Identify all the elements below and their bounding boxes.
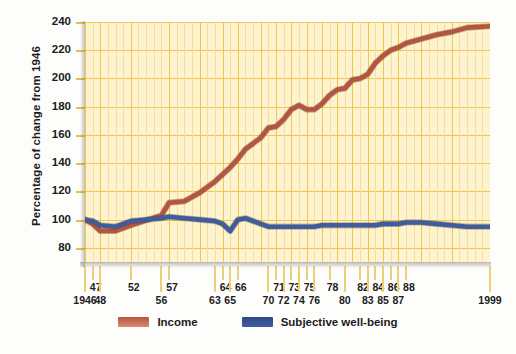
x-axis-label: 65 [224, 294, 236, 306]
x-axis-tick-upper [329, 266, 331, 280]
chart-container: Percentage of change from 1946 801001201… [0, 0, 516, 354]
x-axis-tick-lower [344, 266, 346, 292]
y-axis-label: 240 [27, 15, 71, 27]
x-axis-label: 74 [293, 294, 305, 306]
x-axis-tick-upper [130, 266, 132, 280]
x-axis-tick-upper [92, 266, 94, 280]
x-axis-label: 83 [362, 294, 374, 306]
x-axis-label: 80 [339, 294, 351, 306]
x-axis-label: 85 [377, 294, 389, 306]
legend-item-subjective-well-being: Subjective well-being [242, 316, 398, 328]
x-axis-label: 56 [156, 294, 168, 306]
x-axis-label: 78 [327, 281, 339, 293]
x-axis-label: 1946 [73, 294, 96, 306]
x-axis-tick-lower [397, 266, 399, 292]
x-axis-label: 1999 [478, 294, 501, 306]
x-axis-tick-upper [222, 266, 224, 280]
x-axis-tick-lower [382, 266, 384, 292]
x-axis-label: 52 [128, 281, 140, 293]
y-axis-label: 160 [27, 128, 71, 140]
x-axis-tick-lower [367, 266, 369, 292]
x-axis-tick-upper [374, 266, 376, 280]
y-axis-label: 120 [27, 184, 71, 196]
x-axis-label: 76 [308, 294, 320, 306]
y-axis-label: 220 [27, 43, 71, 55]
y-axis-label: 200 [27, 71, 71, 83]
x-axis-label: 48 [94, 294, 106, 306]
y-axis-label: 180 [27, 100, 71, 112]
x-axis-tick-upper [390, 266, 392, 280]
y-axis-label: 80 [27, 241, 71, 253]
x-axis-tick-upper [237, 266, 239, 280]
legend-item-income: Income [118, 316, 197, 328]
x-axis-label: 70 [263, 294, 275, 306]
legend-label-income: Income [157, 316, 197, 328]
series-lines [85, 22, 490, 262]
legend-swatch-subjective-well-being [242, 317, 273, 327]
legend-label-subjective-well-being: Subjective well-being [281, 316, 398, 328]
x-axis-label: 57 [166, 281, 178, 293]
x-axis-label: 87 [392, 294, 404, 306]
legend-swatch-income [118, 317, 149, 327]
plot-canvas [85, 22, 490, 262]
plot-area [85, 22, 490, 262]
x-axis-label: 72 [278, 294, 290, 306]
x-axis-tick-lower [214, 266, 216, 292]
x-axis-tick-lower [99, 266, 101, 292]
x-axis-tick-lower [84, 266, 86, 292]
chart-legend: Income Subjective well-being [0, 316, 516, 328]
x-axis-tick-upper [405, 266, 407, 280]
x-axis-label: 63 [209, 294, 221, 306]
y-axis-label: 100 [27, 213, 71, 225]
x-axis-tick-lower [313, 266, 315, 292]
x-axis-tick-lower [267, 266, 269, 292]
x-axis-label: 66 [235, 281, 247, 293]
series-shadow-income [85, 26, 490, 231]
x-axis-tick-upper [290, 266, 292, 280]
x-axis-tick-lower [283, 266, 285, 292]
x-axis-tick-lower [229, 266, 231, 292]
x-axis-tick-upper [168, 266, 170, 280]
series-line-income [85, 26, 490, 231]
y-axis-label: 140 [27, 156, 71, 168]
x-axis-tick-upper [359, 266, 361, 280]
x-axis-tick-upper [275, 266, 277, 280]
x-axis-tick-lower [160, 266, 162, 292]
x-axis-tick-upper [306, 266, 308, 280]
x-axis-tick-lower [489, 266, 491, 292]
x-axis-label: 88 [403, 281, 415, 293]
plot-shadow-bottom [80, 262, 491, 268]
x-axis-tick-lower [298, 266, 300, 292]
